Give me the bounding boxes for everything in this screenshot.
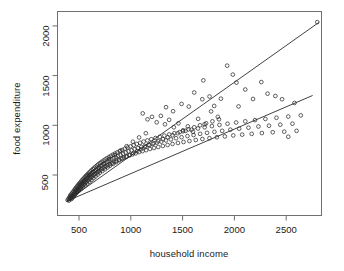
data-point — [200, 97, 204, 101]
data-point — [212, 104, 216, 108]
data-point — [188, 139, 192, 143]
y-axis-title: food expenditure — [11, 59, 22, 179]
data-point — [267, 124, 271, 128]
data-point — [174, 136, 178, 140]
data-point — [131, 140, 135, 144]
data-point — [198, 123, 202, 127]
data-point — [198, 132, 202, 136]
data-point — [250, 132, 254, 136]
data-point — [243, 119, 247, 123]
data-point — [146, 117, 150, 121]
y-axis-ticks — [53, 26, 58, 175]
data-point — [211, 119, 215, 123]
data-point — [144, 131, 148, 135]
data-point — [231, 134, 235, 138]
x-tick-label: 500 — [71, 224, 87, 235]
upper-fit-line — [67, 22, 319, 201]
data-point — [163, 122, 167, 126]
data-point — [237, 105, 241, 109]
x-tick-label: 1000 — [120, 224, 141, 235]
data-point — [220, 129, 224, 133]
data-point — [219, 97, 223, 101]
data-point — [186, 134, 190, 138]
data-point — [295, 129, 299, 133]
data-point — [182, 140, 186, 144]
data-point — [275, 116, 279, 120]
data-point — [149, 137, 153, 141]
data-point — [264, 117, 268, 121]
y-tick-label: 2000 — [40, 25, 51, 46]
data-point — [259, 80, 263, 84]
data-point — [234, 121, 238, 125]
data-point — [192, 91, 196, 95]
lower-fit-line — [67, 95, 313, 201]
data-point — [291, 122, 295, 126]
data-point — [286, 115, 290, 119]
y-tick-label: 1500 — [40, 75, 51, 96]
data-point — [152, 146, 156, 150]
data-point — [148, 147, 152, 151]
x-axis-title: household income — [56, 248, 322, 259]
y-tick-label: 500 — [40, 175, 51, 191]
chart-figure: food expenditure household income 500100… — [0, 0, 344, 271]
data-point — [141, 112, 145, 116]
x-tick-label: 2500 — [276, 224, 297, 235]
data-point — [240, 133, 244, 137]
x-tick-label: 1500 — [172, 224, 193, 235]
data-point — [282, 130, 286, 134]
data-point — [226, 122, 230, 126]
plot-frame — [58, 12, 322, 216]
data-point — [161, 144, 165, 148]
data-point — [280, 97, 284, 101]
data-point — [166, 143, 170, 147]
data-point — [213, 130, 217, 134]
data-point — [146, 139, 150, 143]
data-point — [201, 137, 205, 141]
data-point — [176, 141, 180, 145]
y-tick-label: 1000 — [40, 125, 51, 146]
x-tick-label: 2000 — [224, 224, 245, 235]
data-point — [299, 114, 303, 118]
data-point — [205, 131, 209, 135]
x-axis-ticks — [79, 216, 286, 221]
data-point — [209, 110, 213, 114]
data-point — [155, 120, 159, 124]
data-point — [180, 102, 184, 106]
data-point — [138, 141, 142, 145]
data-point — [180, 135, 184, 139]
data-point — [251, 97, 255, 101]
data-point — [164, 105, 168, 109]
data-point — [194, 138, 198, 142]
data-point — [223, 135, 227, 139]
data-point — [137, 136, 141, 140]
data-point — [167, 118, 171, 122]
data-point — [187, 105, 191, 109]
data-point — [210, 124, 214, 128]
fit-lines — [67, 22, 319, 201]
data-point — [156, 145, 160, 149]
data-point — [271, 130, 275, 134]
data-point — [286, 135, 290, 139]
data-point — [257, 125, 261, 129]
data-point — [266, 92, 270, 96]
data-point — [273, 94, 277, 98]
data-point — [218, 123, 222, 127]
data-point — [247, 126, 251, 130]
data-point — [192, 125, 196, 129]
data-point — [201, 79, 205, 83]
data-point — [260, 131, 264, 135]
data-point — [150, 115, 154, 119]
data-point — [142, 140, 146, 144]
data-point — [171, 142, 175, 146]
data-point — [172, 125, 176, 129]
data-point — [159, 114, 163, 118]
data-point — [196, 117, 200, 121]
data-point — [171, 109, 175, 113]
data-point — [225, 64, 229, 68]
data-point — [231, 73, 235, 77]
data-point — [208, 95, 212, 99]
data-point — [243, 88, 247, 92]
data-point — [278, 123, 282, 127]
